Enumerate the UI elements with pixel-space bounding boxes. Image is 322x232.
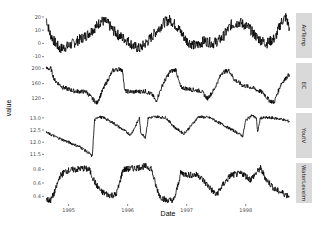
y-tick-label: 13.0 — [30, 115, 41, 121]
series-line-airtemp — [46, 13, 289, 53]
x-tick-label: 1997 — [180, 207, 193, 213]
facet-ec: EC200160120 — [31, 63, 312, 108]
strip-label: EC — [301, 82, 307, 89]
facet-strip: EC — [296, 63, 312, 108]
series-line-ec — [46, 67, 289, 105]
facet-strip: AirTemp — [296, 13, 312, 58]
strip-label: AirTemp — [300, 24, 307, 47]
x-axis: 1995199619971998 — [62, 204, 252, 213]
y-tick-label: 12.5 — [30, 127, 41, 133]
y-tick-label: 0.4 — [33, 193, 41, 199]
y-tick-label: 0 — [38, 40, 41, 46]
y-tick-label: 160 — [31, 80, 41, 86]
facet-waterlevelm: WaterLevelm0.80.60.4 — [33, 163, 312, 203]
y-tick-label: 20 — [35, 14, 41, 20]
series-line-waterlevelm — [46, 163, 289, 203]
y-tick-label: 0.6 — [33, 180, 41, 186]
y-tick-label: 120 — [31, 95, 41, 101]
facet-strip: YoutV — [296, 113, 312, 158]
facet-airtemp: AirTemp20100-10 — [33, 13, 312, 59]
y-tick-label: 10 — [35, 27, 41, 33]
x-axis-title: Date — [161, 210, 176, 217]
y-tick-label: 200 — [31, 65, 41, 71]
facet-panels: AirTemp20100-10EC200160120YoutV13.012.51… — [30, 13, 312, 203]
strip-label: YoutV — [301, 127, 307, 144]
series-line-youtv — [46, 115, 289, 157]
y-axis-title: value — [5, 100, 12, 117]
x-tick-label: 1998 — [239, 207, 252, 213]
y-tick-label: 11.5 — [30, 151, 41, 157]
x-tick-label: 1995 — [62, 207, 75, 213]
x-tick-label: 1996 — [121, 207, 134, 213]
facet-youtv: YoutV13.012.512.011.5 — [30, 113, 312, 158]
y-tick-label: 0.8 — [33, 166, 41, 172]
y-tick-label: -10 — [33, 53, 41, 59]
y-tick-label: 12.0 — [30, 139, 41, 145]
facet-strip: WaterLevelm — [296, 163, 312, 203]
faceted-line-chart: value Date AirTemp20100-10EC200160120You… — [0, 0, 322, 232]
strip-label: WaterLevelm — [301, 165, 307, 201]
